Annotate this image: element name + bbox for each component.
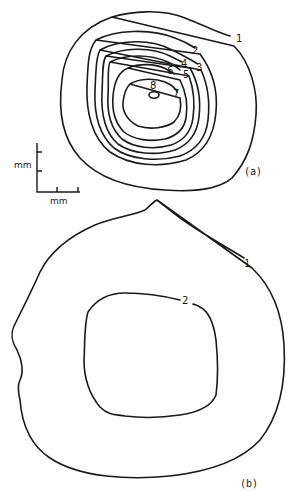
contour-label-a-1: 1	[236, 33, 242, 44]
scale-bar-horizontal-ticks	[57, 187, 78, 192]
panel-label-b: (b)	[240, 478, 258, 489]
contour-label-a-5: 5	[183, 69, 189, 80]
contour-label-b-2: 2	[182, 295, 188, 306]
contour-label-a-7: 7	[173, 88, 179, 99]
scale-bar: mm mm	[14, 143, 80, 206]
contour-label-a-8: 8	[150, 80, 156, 91]
contour-label-a-4: 4	[181, 58, 187, 69]
contour-label-b-1: 1	[244, 258, 250, 269]
contour-a-8	[149, 92, 159, 98]
contour-label-a-2: 2	[192, 45, 198, 56]
panel-b: 1 2 (b)	[12, 200, 284, 489]
contour-a-6	[113, 65, 187, 141]
contour-label-a-3: 3	[196, 62, 202, 73]
panel-label-a: (a)	[244, 166, 262, 177]
contour-a-3	[95, 42, 209, 160]
contour-b-2	[84, 293, 218, 417]
scale-bar-vertical-ticks	[37, 152, 42, 171]
panel-a: 1 2 3 4 5 6 7 8 (a)	[61, 12, 262, 191]
scale-bar-horizontal-unit: mm	[50, 196, 68, 206]
contour-a-1	[61, 12, 257, 191]
scale-bar-vertical-unit: mm	[14, 160, 32, 170]
contour-b-1	[12, 200, 284, 478]
contour-figure: 1 2 3 4 5 6 7 8 (a) mm mm 1 2 (b)	[0, 0, 292, 492]
contour-label-a-6: 6	[167, 65, 173, 76]
